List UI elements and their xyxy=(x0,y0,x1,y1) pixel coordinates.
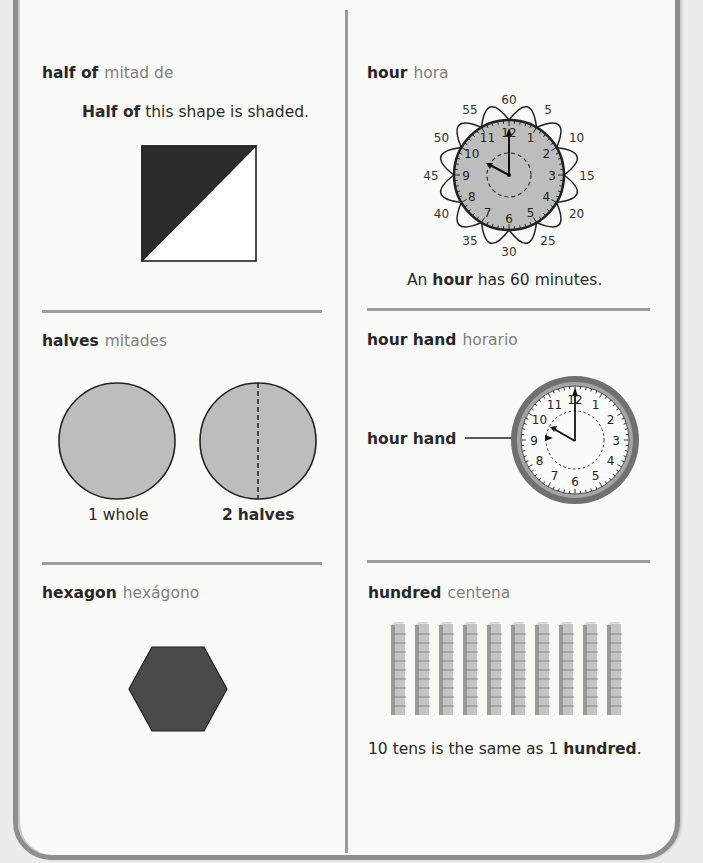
term-english: hundred xyxy=(368,584,441,602)
svg-text:9: 9 xyxy=(530,434,538,448)
svg-text:6: 6 xyxy=(505,212,513,226)
minute-loop-clock-figure: 121234567891011 60510152025303540455055 xyxy=(420,88,600,260)
svg-text:9: 9 xyxy=(462,169,470,183)
term-half-of: half ofmitad de xyxy=(42,64,173,82)
caption-bold: hundred xyxy=(563,740,636,758)
term-english: hour hand xyxy=(367,331,456,349)
term-spanish: centena xyxy=(447,584,510,602)
wall-clock-figure: 121234567891011 xyxy=(465,375,645,505)
term-spanish: mitad de xyxy=(104,64,173,82)
caption-pre: An xyxy=(407,271,432,289)
whole-circle-figure xyxy=(57,381,177,501)
svg-text:4: 4 xyxy=(607,454,615,468)
svg-text:50: 50 xyxy=(434,131,449,145)
term-hour: hourhora xyxy=(367,64,449,82)
term-hour-hand: hour handhorario xyxy=(367,331,518,349)
svg-text:3: 3 xyxy=(548,169,556,183)
svg-text:11: 11 xyxy=(480,131,495,145)
term-english: halves xyxy=(42,332,99,350)
caption-hour: An hour has 60 minutes. xyxy=(407,271,602,289)
svg-text:25: 25 xyxy=(540,234,555,248)
caption-bold: hour xyxy=(432,271,472,289)
hour-hand-pointer-label: hour hand xyxy=(367,430,456,448)
caption-pre: 10 tens is the same as 1 xyxy=(368,740,563,758)
svg-text:8: 8 xyxy=(468,190,476,204)
term-spanish: horario xyxy=(462,331,517,349)
halved-circle-figure xyxy=(198,381,318,501)
caption-text: . xyxy=(637,740,642,758)
term-spanish: hexágono xyxy=(123,584,199,602)
svg-text:6: 6 xyxy=(571,475,579,489)
row-divider-left-2 xyxy=(42,562,322,565)
svg-text:12: 12 xyxy=(501,126,516,140)
svg-text:7: 7 xyxy=(484,206,492,220)
svg-text:60: 60 xyxy=(501,93,516,107)
caption-text: has 60 minutes. xyxy=(473,271,603,289)
caption-bold: Half of xyxy=(82,103,140,121)
term-halves: halvesmitades xyxy=(42,332,167,350)
svg-text:1: 1 xyxy=(527,131,535,145)
svg-text:3: 3 xyxy=(612,434,620,448)
svg-text:10: 10 xyxy=(569,131,584,145)
svg-text:30: 30 xyxy=(501,245,516,259)
svg-text:12: 12 xyxy=(567,393,582,407)
svg-text:4: 4 xyxy=(542,190,550,204)
term-spanish: hora xyxy=(413,64,448,82)
svg-text:5: 5 xyxy=(592,469,600,483)
ten-rods-figure xyxy=(391,622,631,718)
svg-text:5: 5 xyxy=(544,103,552,117)
row-divider-right-2 xyxy=(367,560,650,563)
row-divider-left-1 xyxy=(42,310,322,313)
term-english: hexagon xyxy=(42,584,117,602)
label-two-halves: 2 halves xyxy=(222,506,294,524)
svg-text:40: 40 xyxy=(434,207,449,221)
row-divider-right-1 xyxy=(367,308,650,311)
caption-hundred: 10 tens is the same as 1 hundred. xyxy=(368,740,642,758)
term-english: half of xyxy=(42,64,98,82)
halves-word: halves xyxy=(238,506,295,524)
halves-count: 2 xyxy=(222,506,233,524)
svg-text:1: 1 xyxy=(592,398,600,412)
hexagon-figure xyxy=(128,646,228,732)
svg-text:2: 2 xyxy=(542,147,550,161)
caption-text: this shape is shaded. xyxy=(140,103,309,121)
label-one-whole: 1 whole xyxy=(88,506,149,524)
column-divider xyxy=(345,10,348,853)
svg-text:35: 35 xyxy=(462,234,477,248)
svg-text:45: 45 xyxy=(423,169,438,183)
half-shaded-square-figure xyxy=(141,145,257,262)
term-hexagon: hexagonhexágono xyxy=(42,584,199,602)
svg-text:55: 55 xyxy=(462,103,477,117)
svg-text:7: 7 xyxy=(551,469,559,483)
svg-text:5: 5 xyxy=(527,206,535,220)
term-hundred: hundredcentena xyxy=(368,584,510,602)
svg-text:11: 11 xyxy=(547,398,562,412)
svg-text:15: 15 xyxy=(579,169,594,183)
caption-half-of: Half of this shape is shaded. xyxy=(82,103,309,121)
svg-text:10: 10 xyxy=(532,413,547,427)
term-spanish: mitades xyxy=(105,332,167,350)
term-english: hour xyxy=(367,64,407,82)
svg-text:20: 20 xyxy=(569,207,584,221)
svg-text:10: 10 xyxy=(464,147,479,161)
svg-text:2: 2 xyxy=(607,413,615,427)
svg-text:8: 8 xyxy=(536,454,544,468)
